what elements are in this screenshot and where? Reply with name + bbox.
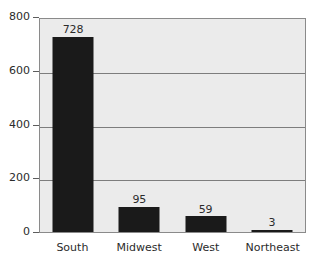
y-tick-label: 0 [23,226,30,237]
y-tick-label: 200 [9,172,30,183]
bar-west[interactable] [185,216,226,232]
y-tick-label: 800 [9,11,30,22]
x-axis-label: Midwest [116,241,161,254]
x-category-south: South [39,236,106,255]
bars-layer: 728 95 59 3 [40,19,305,232]
x-category-midwest: Midwest [106,236,173,255]
y-tick-label: 400 [9,119,30,130]
bar-northeast[interactable] [251,230,292,232]
y-axis: 800 600 400 200 0 [0,0,39,256]
y-tick-label: 600 [9,65,30,76]
bar-slot-midwest: 95 [106,19,172,232]
x-axis: South Midwest West Northeast [39,236,306,256]
bar-value-label-midwest: 95 [132,194,146,205]
bar-value-label-northeast: 3 [268,217,275,228]
x-axis-label: Northeast [245,241,299,254]
bar-value-label-west: 59 [199,204,213,215]
bar-midwest[interactable] [119,207,160,233]
x-category-west: West [173,236,240,255]
bar-slot-northeast: 3 [239,19,305,232]
bar-value-label-south: 728 [63,24,84,35]
bar-south[interactable] [53,37,94,233]
bar-slot-west: 59 [173,19,239,232]
bar-slot-south: 728 [40,19,106,232]
x-axis-label: South [56,241,88,254]
plot-area: 728 95 59 3 [39,18,306,233]
x-category-northeast: Northeast [239,236,306,255]
x-axis-label: West [192,241,219,254]
bar-chart: 800 600 400 200 0 728 [0,0,320,256]
